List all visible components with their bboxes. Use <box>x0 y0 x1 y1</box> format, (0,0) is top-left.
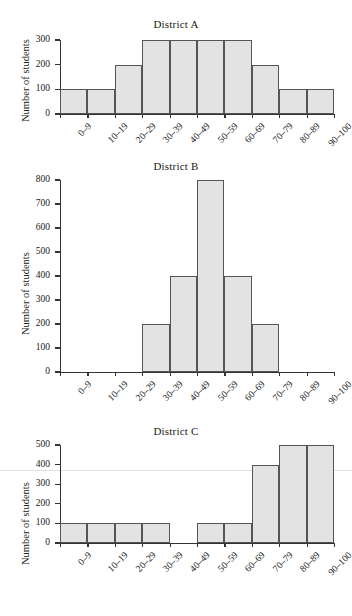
y-tick-c-500 <box>55 444 60 445</box>
y-tick-label-b-100: 100 <box>20 342 50 352</box>
x-tick-label-b-6: 60–69 <box>243 379 267 403</box>
x-tick-c-4 <box>170 543 171 547</box>
x-tick-label-c-4: 40–49 <box>188 550 212 574</box>
x-tick-b-4 <box>170 372 171 376</box>
bar-c-9 <box>307 445 334 543</box>
x-tick-label-a-2: 20–29 <box>133 121 157 145</box>
x-tick-label-a-1: 10–19 <box>106 121 130 145</box>
chart-district-b: District B Number of students 0100200300… <box>0 160 352 430</box>
y-tick-label-a-200: 200 <box>20 59 50 69</box>
x-tick-b-2 <box>115 372 116 376</box>
y-tick-label-c-100: 100 <box>20 517 50 527</box>
x-tick-label-a-3: 30–39 <box>161 121 185 145</box>
chart-district-c: District C Number of students 0100200300… <box>0 425 352 616</box>
chart-title-b: District B <box>0 160 352 172</box>
bar-b-7 <box>252 324 279 372</box>
x-tick-b-6 <box>224 372 225 376</box>
bar-b-4 <box>170 276 197 372</box>
y-tick-label-a-0: 0 <box>20 108 50 118</box>
bar-c-7 <box>252 465 279 543</box>
x-tick-b-1 <box>87 372 88 376</box>
x-tick-label-b-9: 90–100 <box>327 379 352 406</box>
y-tick-label-a-100: 100 <box>20 83 50 93</box>
x-tick-label-b-3: 30–39 <box>161 379 185 403</box>
bar-a-7 <box>252 65 279 114</box>
bar-a-0 <box>60 89 87 114</box>
bar-a-6 <box>224 40 251 114</box>
bar-c-8 <box>279 445 306 543</box>
bar-b-5 <box>197 180 224 372</box>
bar-b-6 <box>224 276 251 372</box>
y-tick-b-300 <box>55 299 60 300</box>
y-tick-b-600 <box>55 227 60 228</box>
x-tick-b-5 <box>197 372 198 376</box>
x-tick-c-2 <box>115 543 116 547</box>
y-tick-c-200 <box>55 503 60 504</box>
x-tick-label-a-8: 80–89 <box>298 121 322 145</box>
y-tick-label-b-500: 500 <box>20 246 50 256</box>
chart-district-a: District A Number of students 0100200300… <box>0 0 352 160</box>
bar-a-2 <box>115 65 142 114</box>
bar-c-5 <box>197 523 224 543</box>
x-tick-b-0 <box>60 372 61 376</box>
x-tick-label-a-9: 90–100 <box>327 121 352 148</box>
bar-b-3 <box>142 324 169 372</box>
x-tick-a-6 <box>224 114 225 118</box>
x-tick-a-3 <box>142 114 143 118</box>
x-tick-label-a-7: 70–79 <box>270 121 294 145</box>
x-tick-label-a-5: 50–59 <box>216 121 240 145</box>
x-tick-a-9 <box>307 114 308 118</box>
x-tick-b-3 <box>142 372 143 376</box>
chart-title-c: District C <box>0 425 352 437</box>
x-tick-a-0 <box>60 114 61 118</box>
x-tick-label-c-9: 90–100 <box>327 550 352 577</box>
x-tick-b-9 <box>307 372 308 376</box>
x-tick-c-3 <box>142 543 143 547</box>
x-tick-label-c-0: 0–9 <box>76 550 93 567</box>
bar-a-5 <box>197 40 224 114</box>
x-tick-c-1 <box>87 543 88 547</box>
x-tick-a-8 <box>279 114 280 118</box>
y-tick-label-b-0: 0 <box>20 366 50 376</box>
y-tick-b-500 <box>55 251 60 252</box>
x-tick-label-b-7: 70–79 <box>270 379 294 403</box>
x-tick-b-7 <box>252 372 253 376</box>
y-tick-c-300 <box>55 484 60 485</box>
y-tick-label-c-200: 200 <box>20 498 50 508</box>
x-tick-label-c-3: 30–39 <box>161 550 185 574</box>
x-tick-a-7 <box>252 114 253 118</box>
x-tick-a-2 <box>115 114 116 118</box>
bar-a-8 <box>279 89 306 114</box>
y-tick-b-200 <box>55 323 60 324</box>
x-tick-c-7 <box>252 543 253 547</box>
bar-c-3 <box>142 523 169 543</box>
y-tick-b-100 <box>55 347 60 348</box>
y-tick-b-400 <box>55 275 60 276</box>
y-tick-label-b-200: 200 <box>20 318 50 328</box>
y-tick-label-c-0: 0 <box>20 537 50 547</box>
x-tick-c-9 <box>307 543 308 547</box>
y-tick-c-400 <box>55 464 60 465</box>
chart-title-a: District A <box>0 18 352 30</box>
x-tick-label-c-1: 10–19 <box>106 550 130 574</box>
bar-a-3 <box>142 40 169 114</box>
x-tick-a-4 <box>170 114 171 118</box>
x-tick-c-0 <box>60 543 61 547</box>
x-tick-label-b-4: 40–49 <box>188 379 212 403</box>
bar-c-2 <box>115 523 142 543</box>
bar-a-9 <box>307 89 334 114</box>
figure-page: District A Number of students 0100200300… <box>0 0 352 616</box>
x-tick-label-c-2: 20–29 <box>133 550 157 574</box>
x-tick-c-6 <box>224 543 225 547</box>
bar-c-1 <box>87 523 114 543</box>
y-tick-a-300 <box>55 39 60 40</box>
y-tick-label-a-300: 300 <box>20 34 50 44</box>
x-tick-label-a-0: 0–9 <box>76 121 93 138</box>
x-tick-c-10 <box>334 543 335 547</box>
y-tick-label-b-400: 400 <box>20 270 50 280</box>
y-tick-label-b-800: 800 <box>20 174 50 184</box>
x-tick-label-b-1: 10–19 <box>106 379 130 403</box>
x-tick-c-8 <box>279 543 280 547</box>
y-tick-b-800 <box>55 179 60 180</box>
y-tick-label-c-400: 400 <box>20 459 50 469</box>
